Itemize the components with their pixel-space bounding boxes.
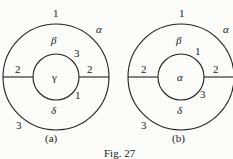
panel-b-caption: (b) (172, 132, 185, 145)
label-a-top: 1 (53, 7, 59, 19)
label-b-upper: β (175, 34, 182, 46)
figure-diagram: 1 α β 3 2 γ 2 1 δ 3 (a) 1 α β 1 2 α 2 3 … (0, 0, 233, 159)
label-a-right: 2 (87, 63, 93, 75)
label-b-left: 2 (141, 63, 147, 75)
label-a-outer: α (96, 23, 102, 35)
label-b-right: 2 (213, 63, 219, 75)
label-a-inner: γ (51, 71, 57, 83)
label-b-lower: δ (177, 104, 183, 116)
panel-a-caption: (a) (45, 132, 58, 145)
label-b-top: 1 (179, 7, 185, 19)
label-b-inner-lr: 3 (200, 88, 206, 100)
label-a-left: 2 (15, 63, 21, 75)
label-a-upper: β (50, 34, 57, 46)
label-b-inner: α (177, 71, 183, 83)
label-b-outer: α (223, 23, 229, 35)
label-b-bottom-left: 3 (141, 119, 147, 131)
label-a-lower: δ (51, 104, 57, 116)
label-b-inner-ur: 1 (195, 45, 201, 57)
label-a-bottom-left: 3 (16, 119, 22, 131)
figure-caption: Fig. 27 (104, 147, 136, 159)
label-a-inner-ur: 3 (74, 47, 80, 59)
label-a-inner-lr: 1 (75, 89, 81, 101)
